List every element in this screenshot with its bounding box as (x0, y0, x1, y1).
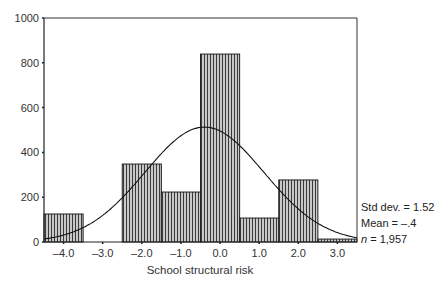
x-tick-label: –4.0 (53, 247, 74, 259)
y-tick-label: 400 (21, 146, 39, 158)
histogram-bar (279, 180, 318, 242)
histogram-bar (240, 218, 279, 242)
y-tick-label: 1000 (15, 12, 39, 24)
n-label: n = 1,957 (361, 233, 407, 245)
x-tick-label: 0.0 (212, 247, 227, 259)
std-dev-label: Std dev. = 1.52 (361, 201, 435, 213)
x-tick-label: –3.0 (92, 247, 113, 259)
x-tick-label: –2.0 (131, 247, 152, 259)
y-tick-label: 600 (21, 102, 39, 114)
mean-label: Mean = –.4 (361, 217, 416, 229)
y-tick-label: 800 (21, 57, 39, 69)
histogram-bar (161, 192, 200, 242)
x-tick-label: 2.0 (291, 247, 306, 259)
x-tick-label: 1.0 (252, 247, 267, 259)
y-tick-label: 200 (21, 191, 39, 203)
x-tick-label: 3.0 (330, 247, 345, 259)
n-value: = 1,957 (367, 233, 407, 245)
x-tick-label: –1.0 (170, 247, 191, 259)
histogram-bars (44, 54, 357, 242)
y-tick-label: 0 (33, 236, 39, 248)
histogram-bar (201, 54, 240, 242)
x-axis-label: School structural risk (0, 264, 400, 276)
histogram-chart: 02004006008001000–4.0–3.0–2.0–1.00.01.02… (0, 0, 448, 290)
